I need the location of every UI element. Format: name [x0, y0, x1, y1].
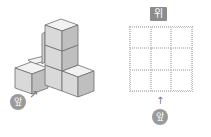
grid-cell-r2c1[interactable] [130, 48, 151, 69]
grid-cell-r3c3[interactable] [171, 70, 192, 91]
grid-cell-r3c1[interactable] [130, 70, 151, 91]
grid-cell-r1c2[interactable] [151, 27, 172, 48]
front-arrow-up-icon: ↑ [156, 96, 164, 106]
grid-cell-r2c3[interactable] [171, 48, 192, 69]
cube-stack-figure [0, 0, 105, 137]
front-arrow-left-icon: ↗ [29, 90, 38, 100]
top-view-label: 위 [150, 7, 167, 21]
grid-cell-r1c3[interactable] [171, 27, 192, 48]
grid-cell-r3c2[interactable] [151, 70, 172, 91]
tower-back-sliver [42, 32, 45, 64]
top-view-grid [129, 26, 193, 92]
front-label-right: 앞 [152, 109, 168, 125]
front-label-left: 앞 [10, 94, 26, 110]
grid-cell-r2c2[interactable] [151, 48, 172, 69]
grid-cell-r1c1[interactable] [130, 27, 151, 48]
